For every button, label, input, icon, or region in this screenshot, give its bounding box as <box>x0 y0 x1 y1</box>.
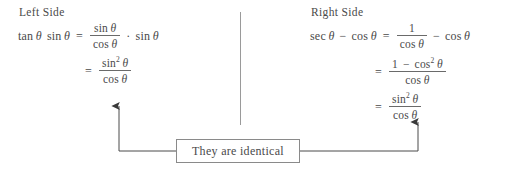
arrow-to-left-side <box>119 106 176 151</box>
conclusion-box: They are identical <box>176 139 300 163</box>
arrow-to-right-side <box>300 122 418 151</box>
conclusion-label: They are identical <box>192 144 284 159</box>
proof-diagram: Left Side tanθsinθ = sinθ cosθ · sinθ = … <box>0 0 511 175</box>
